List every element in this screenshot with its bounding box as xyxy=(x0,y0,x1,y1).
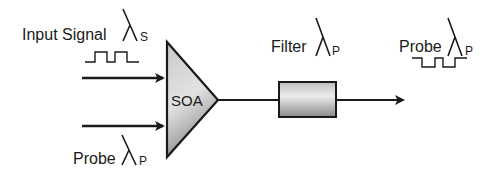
input-signal-label: Input Signal S xyxy=(22,9,148,44)
svg-text:P: P xyxy=(465,44,473,58)
probe-out-label: Probe P xyxy=(399,18,473,58)
lambda-icon xyxy=(448,18,462,56)
probe-out-inverted-pulse-icon xyxy=(412,58,467,67)
filter-box xyxy=(279,82,336,117)
svg-text:Filter: Filter xyxy=(271,38,307,55)
lambda-icon xyxy=(123,9,137,41)
input-pulse-icon xyxy=(85,52,139,62)
filter-label: Filter P xyxy=(271,18,340,58)
probe-in-label: Probe P xyxy=(73,135,147,168)
svg-text:P: P xyxy=(332,44,340,58)
soa-amplifier: SOA xyxy=(167,42,218,157)
diagram-canvas: Input Signal S Probe P SOA Filter P Prob… xyxy=(0,0,504,180)
svg-text:Input Signal: Input Signal xyxy=(22,26,107,43)
lambda-icon xyxy=(122,135,136,165)
svg-text:Probe: Probe xyxy=(399,38,442,55)
svg-text:Probe: Probe xyxy=(73,150,116,167)
svg-text:S: S xyxy=(140,30,148,44)
svg-text:SOA: SOA xyxy=(171,92,203,109)
svg-text:P: P xyxy=(139,154,147,168)
lambda-icon xyxy=(316,18,330,56)
